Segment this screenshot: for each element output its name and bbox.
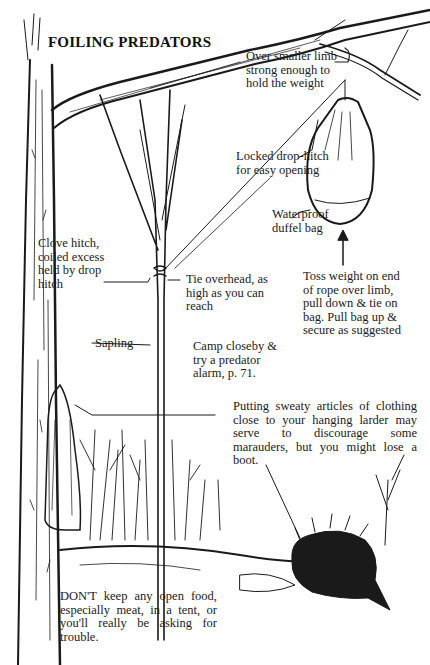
label-duffel-bag: Waterproof duffel bag (272, 208, 329, 235)
label-toss-weight: Toss weight on end of rope over limb, pu… (303, 270, 401, 338)
label-camp-closeby: Camp closeby & try a predator alarm, p. … (193, 340, 277, 381)
sapling (100, 90, 185, 640)
upward-arrow-icon (338, 230, 348, 265)
label-tie-overhead: Tie overhead, as high as you can reach (186, 273, 268, 314)
label-dont-keep-food: DON'T keep any open food, especially mea… (60, 590, 217, 644)
porcupine (240, 465, 390, 610)
tree-trunk (18, 14, 60, 665)
page-title: FOILING PREDATORS (48, 34, 211, 51)
label-over-limb: Over smaller limb strong enough to hold … (246, 50, 337, 91)
overhanging-limb (52, 10, 430, 128)
label-sapling: Sapling (95, 337, 133, 351)
label-clove-hitch: Clove hitch, coiled excess held by drop … (38, 237, 104, 291)
label-drop-hitch: Locked drop-hitch for easy opening (236, 150, 329, 177)
clothing-on-trunk (45, 385, 215, 530)
label-sweaty-clothing: Putting sweaty articles of clothing clos… (233, 400, 417, 468)
